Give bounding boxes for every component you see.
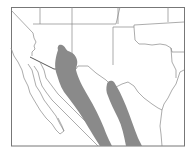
state-borders	[11, 7, 184, 87]
range-areas	[55, 45, 142, 146]
range-map	[0, 0, 195, 153]
